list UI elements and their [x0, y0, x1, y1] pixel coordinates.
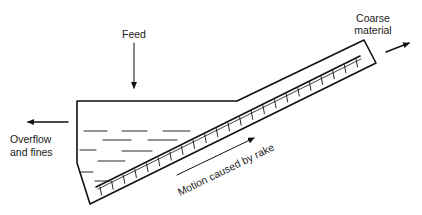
coarse-arrow: [386, 43, 409, 52]
overflow-label-line1: Overflow: [10, 133, 52, 145]
rake-tooth: [356, 59, 358, 67]
rake-tooth: [112, 181, 114, 189]
liquid-pool: [80, 131, 190, 181]
rake-classifier-diagram: Feed Overflow and fines Coarse material …: [0, 0, 422, 215]
rake-tooth: [344, 65, 346, 73]
motion-label: Motion caused by rake: [176, 141, 276, 198]
rake-tooth: [100, 187, 102, 195]
overflow-label-line2: and fines: [10, 146, 53, 158]
coarse-label-line2: material: [354, 24, 391, 36]
feed-label: Feed: [122, 28, 146, 40]
coarse-label-line1: Coarse: [356, 12, 390, 24]
rake-tooth: [333, 71, 335, 79]
